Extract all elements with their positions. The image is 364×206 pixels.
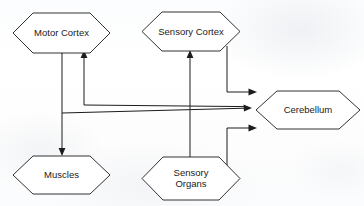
diagram-canvas: Motor Cortex Sensory Cortex Cerebellum M… — [0, 0, 364, 206]
edge-sensory-cortex-to-cerebellum — [227, 46, 257, 96]
node-sensory-cortex[interactable] — [142, 12, 240, 51]
node-cerebellum[interactable] — [256, 91, 360, 129]
node-motor-cortex[interactable] — [13, 13, 110, 53]
node-muscles[interactable] — [13, 156, 110, 194]
edge-motor-to-muscles — [59, 50, 66, 156]
node-sensory-organs[interactable] — [142, 157, 240, 200]
edge-cerebellum-to-motor-cortex — [81, 50, 245, 107]
edge-sensory-organs-to-cerebellum — [227, 124, 257, 166]
diagram-graphics — [0, 0, 364, 206]
